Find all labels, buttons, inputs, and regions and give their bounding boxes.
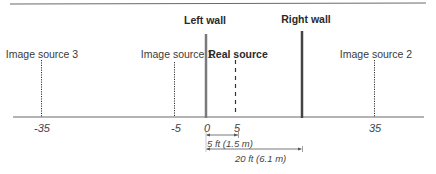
tick-label: -35	[34, 122, 50, 134]
tick-label: 35	[369, 122, 381, 134]
arrowhead-right-icon	[298, 148, 302, 151]
tick-label: 0	[204, 122, 210, 134]
tick-label: 5	[234, 122, 240, 134]
right-wall-label: Right wall	[281, 13, 331, 25]
left-wall-label: Left wall	[184, 14, 226, 26]
top-rule	[10, 3, 426, 4]
tick-label: -5	[171, 122, 181, 134]
dimension-5ft-label: 5 ft (1.5 m)	[207, 138, 253, 149]
image-source-1-label: Image source 1	[141, 48, 213, 60]
image-source-2-label: Image source 2	[340, 48, 412, 60]
real-source-label: Real source	[208, 48, 268, 60]
dimension-20ft-label: 20 ft (6.1 m)	[235, 153, 286, 164]
image-source-3-label: Image source 3	[6, 48, 78, 60]
